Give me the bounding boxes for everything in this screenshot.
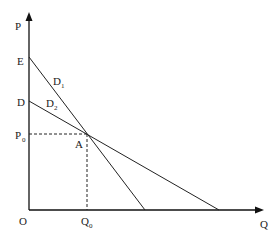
q0-label: Q: [81, 215, 89, 227]
curve-d2-label: D: [46, 97, 54, 109]
demand-diagram: P Q O E D P 0 A Q 0 D 1 D 2: [0, 0, 277, 241]
p0-label-sub: 0: [22, 136, 26, 144]
x-axis-arrow-icon: [255, 207, 264, 214]
curve-d1-label: D: [53, 75, 61, 87]
y-axis-label: P: [15, 20, 21, 32]
origin-label: O: [19, 215, 27, 227]
x-axis-label: Q: [260, 218, 268, 230]
demand-curve-d2: [29, 101, 219, 210]
curve-d2-label-sub: 2: [54, 104, 58, 112]
point-d-label: D: [17, 96, 25, 108]
point-e-label: E: [17, 55, 24, 67]
y-axis-arrow-icon: [26, 12, 33, 21]
q0-label-sub: 0: [89, 222, 93, 230]
p0-label: P: [15, 129, 21, 141]
curve-d1-label-sub: 1: [61, 82, 65, 90]
point-a-label: A: [75, 138, 83, 150]
